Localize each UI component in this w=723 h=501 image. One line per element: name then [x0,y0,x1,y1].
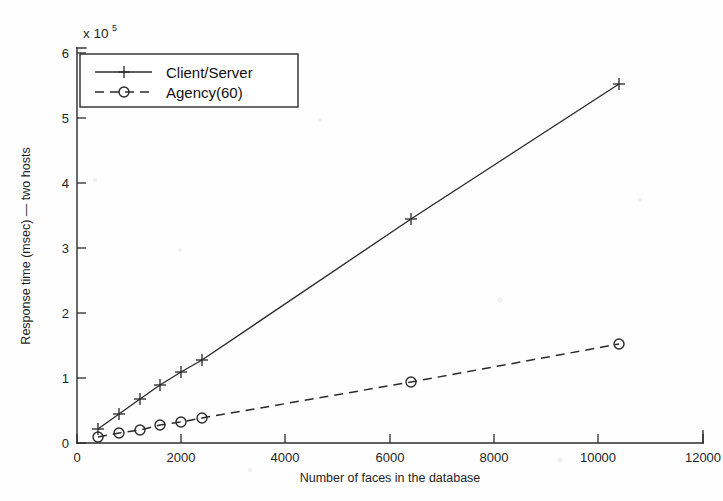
series-agency-60 [93,339,624,442]
paper-texture [93,118,642,482]
chart-legend[interactable]: Client/Server Agency(60) [80,54,298,107]
y-tick-label-0: 0 [62,436,69,451]
x-tick-label-4000: 4000 [271,450,300,465]
y-exponent-base: x 10 [83,26,109,41]
y-axis-title: Response time (msec) — two hosts [19,147,33,344]
series-agency-60-markers [93,339,624,442]
legend-label-agency-60: Agency(60) [166,84,243,101]
x-tick-label-10000: 10000 [580,450,616,465]
legend-label-client-server: Client/Server [166,64,253,81]
y-tick-label-5: 5 [62,111,69,126]
y-tick-label-3: 3 [62,241,69,256]
x-axis-title: Number of faces in the database [300,471,481,485]
x-tick-label-2000: 2000 [167,450,196,465]
y-axis-exponent: x 10 5 [83,23,117,41]
line-chart: 0 1 2 3 4 5 6 x 10 5 0 2000 4000 6000 80 [0,0,723,501]
y-exponent-power: 5 [112,23,117,33]
y-tick-label-2: 2 [62,306,69,321]
series-client-server [92,78,625,435]
x-tick-label-8000: 8000 [480,450,509,465]
y-tick-label-1: 1 [62,371,69,386]
x-axis-ticks: 0 2000 4000 6000 8000 10000 12000 [73,434,721,465]
chart-figure: 0 1 2 3 4 5 6 x 10 5 0 2000 4000 6000 80 [0,0,723,501]
x-tick-label-12000: 12000 [685,450,721,465]
x-tick-label-6000: 6000 [376,450,405,465]
y-tick-label-4: 4 [62,176,69,191]
y-tick-label-6: 6 [62,46,69,61]
series-client-server-line [98,84,619,429]
x-tick-label-0: 0 [73,450,80,465]
